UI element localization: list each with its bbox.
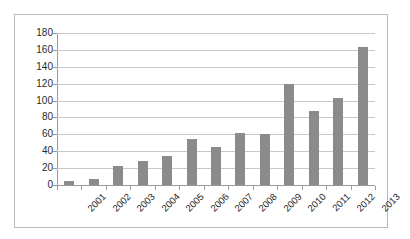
y-axis-label: 80 <box>17 112 53 122</box>
y-axis-label: 40 <box>17 146 53 156</box>
x-axis-tick <box>106 186 107 190</box>
x-axis-tick <box>302 186 303 190</box>
y-axis-tick <box>53 33 57 34</box>
x-axis-tick <box>228 186 229 190</box>
chart-frame: 180160140120100806040200 200120022003200… <box>14 14 388 228</box>
x-axis-tick <box>351 186 352 190</box>
x-axis-label: 2008 <box>257 191 280 214</box>
y-axis-label: 160 <box>17 45 53 55</box>
y-axis-tick-labels: 180160140120100806040200 <box>15 33 53 185</box>
x-axis-label: 2007 <box>232 191 255 214</box>
y-axis-label: 60 <box>17 129 53 139</box>
y-axis-tick <box>53 151 57 152</box>
y-axis-tick <box>53 50 57 51</box>
y-axis-label: 140 <box>17 62 53 72</box>
x-axis-tick <box>179 186 180 190</box>
x-axis-tick <box>253 186 254 190</box>
x-axis-label: 2010 <box>306 191 329 214</box>
y-axis-tick <box>53 168 57 169</box>
x-axis-tick <box>277 186 278 190</box>
y-axis-tick <box>53 84 57 85</box>
x-axis-label: 2002 <box>110 191 133 214</box>
x-axis-tick <box>57 186 58 190</box>
x-axis-label: 2001 <box>85 191 108 214</box>
x-axis-tick <box>155 186 156 190</box>
x-axis-tick-labels: 2001200220032004200520062007200820092010… <box>57 191 375 231</box>
y-axis-label: 0 <box>17 180 53 190</box>
x-axis-label: 2004 <box>159 191 182 214</box>
x-axis-label: 2006 <box>208 191 231 214</box>
x-axis-label: 2012 <box>354 191 377 214</box>
x-axis-tick <box>375 186 376 190</box>
y-axis-tick <box>53 117 57 118</box>
y-axis-tick <box>53 67 57 68</box>
y-axis-tick <box>53 101 57 102</box>
y-axis-label: 180 <box>17 28 53 38</box>
y-axis-tick <box>53 185 57 186</box>
x-axis-tick <box>130 186 131 190</box>
y-axis-label: 20 <box>17 163 53 173</box>
x-axis-label: 2003 <box>134 191 157 214</box>
x-axis-label: 2011 <box>330 191 352 213</box>
x-axis-label: 2013 <box>379 191 402 214</box>
y-axis-label: 120 <box>17 79 53 89</box>
x-axis-label: 2009 <box>281 191 304 214</box>
x-axis-tick <box>204 186 205 190</box>
x-axis-tick <box>326 186 327 190</box>
x-axis-tick <box>81 186 82 190</box>
y-axis-label: 100 <box>17 96 53 106</box>
y-axis-tick <box>53 134 57 135</box>
x-axis-label: 2005 <box>183 191 206 214</box>
